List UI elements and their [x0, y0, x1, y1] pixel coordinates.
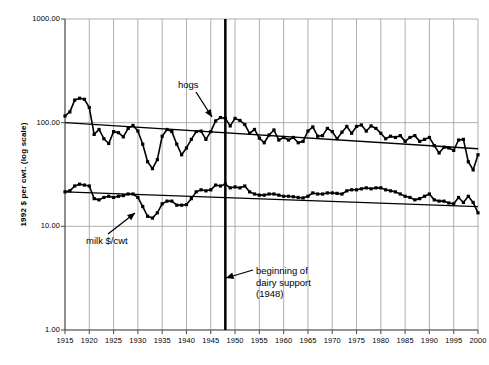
series-marker-hogs [214, 119, 217, 122]
series-marker-hogs [141, 143, 144, 146]
series-marker-hogs [345, 125, 348, 128]
series-marker-hogs [360, 123, 363, 126]
series-marker-hogs [233, 117, 236, 120]
y-axis-tick-label: 1.00 [10, 325, 60, 334]
y-axis-tick-label: 1000.00 [10, 14, 60, 23]
series-marker-hogs [267, 133, 270, 136]
series-marker-hogs [472, 168, 475, 171]
series-marker-hogs [131, 124, 134, 127]
series-marker-hogs [97, 128, 100, 131]
series-marker-milk [209, 188, 212, 191]
annotation-dairy-support-line3: (1948) [256, 288, 311, 300]
series-marker-hogs [204, 138, 207, 141]
series-marker-milk [151, 217, 154, 220]
series-marker-milk [442, 200, 445, 203]
series-marker-milk [78, 183, 81, 186]
series-marker-hogs [199, 129, 202, 132]
series-marker-milk [165, 200, 168, 203]
series-marker-milk [335, 192, 338, 195]
series-marker-milk [306, 195, 309, 198]
series-marker-hogs [331, 130, 334, 133]
series-marker-milk [282, 195, 285, 198]
series-marker-hogs [452, 149, 455, 152]
series-marker-milk [190, 197, 193, 200]
series-marker-milk [170, 200, 173, 203]
series-marker-milk [63, 190, 66, 193]
series-marker-milk [161, 202, 164, 205]
series-marker-hogs [68, 110, 71, 113]
series-marker-milk [233, 185, 236, 188]
series-marker-milk [112, 196, 115, 199]
series-marker-milk [326, 191, 329, 194]
series-marker-hogs [365, 129, 368, 132]
series-marker-hogs [370, 124, 373, 127]
series-marker-milk [316, 192, 319, 195]
series-marker-hogs [224, 117, 227, 120]
series-marker-milk [404, 195, 407, 198]
series-marker-hogs [258, 136, 261, 139]
series-marker-milk [394, 190, 397, 193]
series-marker-hogs [476, 153, 479, 156]
series-marker-milk [399, 192, 402, 195]
series-marker-hogs [292, 136, 295, 139]
series-marker-hogs [379, 132, 382, 135]
series-marker-milk [384, 188, 387, 191]
series-marker-milk [107, 195, 110, 198]
series-marker-milk [180, 204, 183, 207]
series-marker-milk [122, 194, 125, 197]
series-marker-hogs [399, 134, 402, 137]
series-marker-milk [379, 186, 382, 189]
series-marker-hogs [209, 130, 212, 133]
y-axis-tick-label: 10.00 [10, 221, 60, 230]
annotation-dairy-support: beginning of dairy support (1948) [256, 265, 311, 300]
series-marker-milk [452, 202, 455, 205]
series-marker-milk [97, 198, 100, 201]
annotation-hogs-arrowhead [205, 109, 212, 117]
series-marker-milk [418, 197, 421, 200]
series-marker-hogs [418, 140, 421, 143]
series-marker-hogs [117, 131, 120, 134]
annotation-milk-arrowhead [127, 213, 135, 220]
series-marker-milk [263, 194, 266, 197]
series-marker-milk [73, 184, 76, 187]
series-marker-milk [277, 194, 280, 197]
series-marker-milk [462, 201, 465, 204]
series-marker-milk [447, 201, 450, 204]
series-marker-milk [117, 195, 120, 198]
series-marker-milk [272, 192, 275, 195]
y-axis-tick-label: 100.00 [10, 118, 60, 127]
annotation-dairy-support-line1: beginning of [256, 265, 311, 277]
series-marker-hogs [122, 135, 125, 138]
series-marker-milk [68, 189, 71, 192]
series-marker-milk [297, 196, 300, 199]
series-marker-milk [438, 200, 441, 203]
chart-figure: 1992 $ per cwt. (log scale) 1000.00100.0… [0, 0, 489, 365]
series-marker-milk [374, 186, 377, 189]
series-marker-milk [467, 195, 470, 198]
data-series-group [63, 97, 479, 220]
series-marker-hogs [297, 141, 300, 144]
series-marker-milk [93, 197, 96, 200]
series-marker-hogs [136, 129, 139, 132]
series-marker-milk [301, 196, 304, 199]
series-marker-hogs [102, 137, 105, 140]
series-marker-milk [389, 189, 392, 192]
series-marker-hogs [112, 130, 115, 133]
series-marker-hogs [408, 136, 411, 139]
series-marker-milk [204, 189, 207, 192]
series-marker-hogs [316, 135, 319, 138]
series-marker-hogs [311, 125, 314, 128]
annotation-arrows-group [108, 92, 253, 279]
series-marker-hogs [88, 106, 91, 109]
series-marker-hogs [355, 125, 358, 128]
series-marker-hogs [93, 133, 96, 136]
series-marker-milk [457, 196, 460, 199]
series-marker-hogs [326, 127, 329, 130]
series-marker-milk [345, 189, 348, 192]
series-marker-hogs [389, 135, 392, 138]
series-marker-hogs [374, 127, 377, 130]
series-marker-milk [253, 192, 256, 195]
series-marker-milk [413, 198, 416, 201]
series-marker-milk [156, 211, 159, 214]
series-marker-hogs [321, 134, 324, 137]
